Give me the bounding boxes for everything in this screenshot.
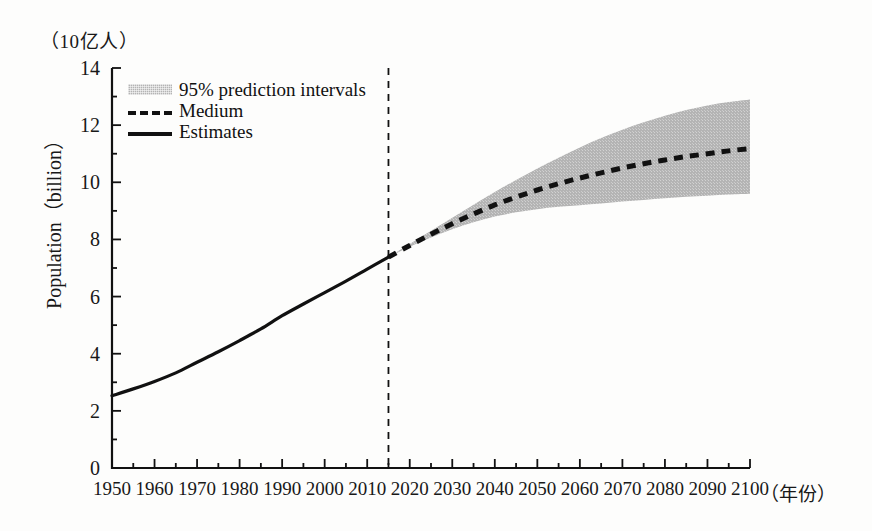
legend-item-estimates: Estimates: [128, 121, 366, 142]
x-tick-label: 2070: [598, 479, 646, 498]
legend-item-medium: Medium: [128, 100, 366, 121]
x-tick-label: 2090: [683, 479, 731, 498]
y-tick-label: 2: [60, 401, 100, 421]
x-tick-label: 2060: [556, 479, 604, 498]
x-tick-label: 2020: [386, 479, 434, 498]
y-tick-label: 0: [60, 458, 100, 478]
x-tick-label: 1950: [88, 479, 136, 498]
x-tick-label: 1960: [131, 479, 179, 498]
legend-item-prediction-intervals: 95% prediction intervals: [128, 79, 366, 100]
x-tick-label: 2040: [471, 479, 519, 498]
x-tick-label: 2050: [513, 479, 561, 498]
x-tick-label: 2080: [641, 479, 689, 498]
y-tick-label: 4: [60, 344, 100, 364]
x-tick-label: 2000: [301, 479, 349, 498]
x-tick-label: 2100: [726, 479, 774, 498]
y-tick-label: 10: [60, 172, 100, 192]
y-tick-label: 14: [60, 58, 100, 78]
band-swatch-icon: [128, 84, 172, 95]
y-tick-label: 6: [60, 287, 100, 307]
dashed-line-swatch-icon: [128, 111, 172, 115]
y-tick-label: 8: [60, 229, 100, 249]
legend-label: Estimates: [179, 122, 253, 141]
legend-label: Medium: [179, 101, 243, 120]
solid-line-swatch-icon: [128, 132, 172, 136]
y-tick-label: 12: [60, 115, 100, 135]
x-tick-label: 2030: [428, 479, 476, 498]
chart-legend: 95% prediction intervals Medium Estimate…: [128, 79, 366, 142]
x-tick-label: 1990: [258, 479, 306, 498]
x-tick-label: 1980: [216, 479, 264, 498]
legend-label: 95% prediction intervals: [179, 80, 366, 99]
x-tick-label: 2010: [343, 479, 391, 498]
x-tick-label: 1970: [173, 479, 221, 498]
population-projection-chart: （10亿人） （年份） Population（billion） 02468101…: [0, 0, 872, 531]
